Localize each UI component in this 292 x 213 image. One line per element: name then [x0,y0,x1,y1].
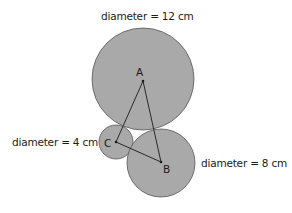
small-diameter-label: diameter = 4 cm [12,136,98,148]
point-a-label: A [136,66,144,78]
point-b-label: B [163,163,170,175]
large-circle [92,28,194,130]
medium-diameter-label: diameter = 8 cm [201,157,287,169]
point-c-dot [115,141,118,144]
large-diameter-label: diameter = 12 cm [101,10,194,22]
point-c-label: C [104,137,111,149]
circles-diagram: A B C [0,0,292,213]
point-a-dot [142,80,145,83]
point-b-dot [160,161,163,164]
